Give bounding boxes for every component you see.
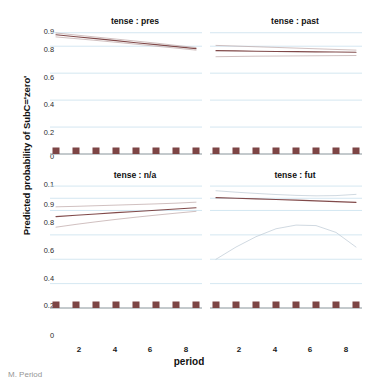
rug-mark bbox=[293, 302, 300, 309]
rug-mark bbox=[173, 302, 180, 309]
rug-mark bbox=[333, 302, 340, 309]
rug-mark bbox=[193, 148, 200, 155]
confidence-line bbox=[56, 37, 196, 50]
confidence-line bbox=[216, 225, 356, 259]
rug-mark bbox=[293, 148, 300, 155]
rug-mark bbox=[73, 148, 80, 155]
rug-mark bbox=[353, 148, 360, 155]
panel-tense-pres bbox=[50, 33, 202, 154]
rug-mark bbox=[213, 302, 220, 309]
rug-mark bbox=[233, 302, 240, 309]
rug-mark bbox=[233, 148, 240, 155]
rug-mark bbox=[93, 148, 100, 155]
rug-mark bbox=[253, 148, 260, 155]
confidence-line bbox=[216, 191, 356, 196]
rug-mark bbox=[353, 302, 360, 309]
rug-mark bbox=[153, 148, 160, 155]
figure-caption: M. Period bbox=[8, 370, 42, 379]
confidence-line bbox=[56, 202, 196, 207]
rug-mark bbox=[113, 302, 120, 309]
panel-tense-n-a bbox=[50, 186, 202, 308]
rug-mark bbox=[313, 148, 320, 155]
panel-tense-past bbox=[210, 33, 362, 154]
rug-mark bbox=[273, 148, 280, 155]
confidence-line bbox=[216, 56, 356, 57]
confidence-line bbox=[56, 33, 196, 48]
rug-mark bbox=[273, 302, 280, 309]
rug-mark bbox=[213, 148, 220, 155]
rug-mark bbox=[193, 302, 200, 309]
rug-mark bbox=[133, 148, 140, 155]
rug-mark bbox=[153, 302, 160, 309]
fit-line bbox=[216, 51, 356, 53]
fit-line bbox=[56, 208, 196, 217]
rug-mark bbox=[253, 302, 260, 309]
confidence-line bbox=[56, 211, 196, 227]
rug-mark bbox=[113, 148, 120, 155]
rug-mark bbox=[53, 148, 60, 155]
rug-mark bbox=[133, 302, 140, 309]
plot-canvas bbox=[0, 0, 378, 387]
rug-mark bbox=[93, 302, 100, 309]
rug-mark bbox=[333, 148, 340, 155]
rug-mark bbox=[313, 302, 320, 309]
panel-tense-fut bbox=[210, 186, 362, 308]
effect-plot-figure: Predicted probability of SubC='zero' per… bbox=[0, 0, 378, 387]
rug-mark bbox=[53, 302, 60, 309]
rug-mark bbox=[73, 302, 80, 309]
rug-mark bbox=[173, 148, 180, 155]
